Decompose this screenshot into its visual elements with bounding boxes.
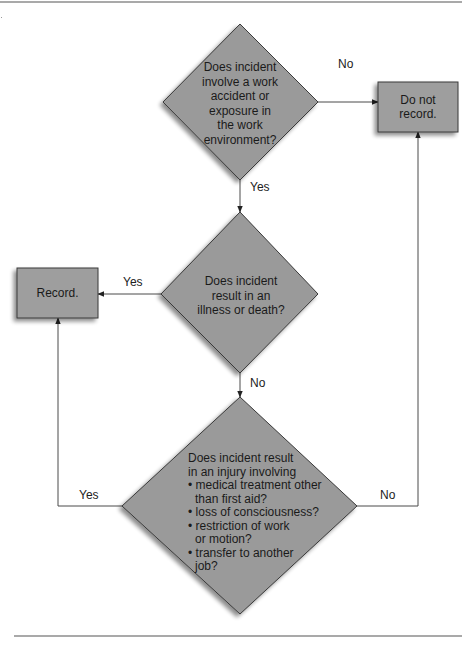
text-line: involve a work [185,75,295,90]
edge-label-d2-no: No [250,376,265,390]
text-line: exposure in [185,104,295,119]
text-line: Does incident [185,274,297,289]
text-line: record. [399,107,436,121]
bullet-icon: • [188,546,196,560]
text-line: environment? [185,133,295,148]
text-line: Do not [400,93,435,107]
text-line: Record. [36,286,78,300]
bullet-item: • transfer to another [188,547,338,561]
bullet-icon: • [188,505,196,519]
text-line: result in an [185,289,297,304]
corner-tick [1,17,2,18]
text-line: medical treatment other [196,478,322,492]
text-line: the work [185,118,295,133]
bullet-item: • loss of consciousness? [188,506,338,520]
text-line: or motion? [188,533,338,547]
edge-label-d2-yes: Yes [123,275,143,289]
decision-1-text: Does incident involve a work accident or… [185,60,295,147]
record-label: Record. [17,268,98,318]
decision-2-text: Does incident result in an illness or de… [185,274,297,318]
decision-3-text: Does incident result in an injury involv… [188,452,338,574]
text-line: accident or [185,89,295,104]
edge-label-d3-yes: Yes [79,488,99,502]
text-line: job? [188,560,338,574]
text-line: transfer to another [196,546,294,560]
text-line: Does incident result [188,452,338,466]
edge-label-d1-yes: Yes [250,180,270,194]
edge-label-d3-no: No [380,488,395,502]
text-line: illness or death? [185,303,297,318]
do-not-record-label: Do not record. [378,82,458,132]
text-line: than first aid? [188,493,338,507]
text-line: in an injury involving [188,466,338,480]
text-line: loss of consciousness? [196,505,319,519]
text-line: restriction of work [196,519,290,533]
bullet-icon: • [188,478,196,492]
edge-d3-no [357,132,418,506]
bullet-item: • restriction of work [188,520,338,534]
bullet-icon: • [188,519,196,533]
text-line: Does incident [185,60,295,75]
edge-d3-yes [58,318,122,506]
edge-label-d1-no: No [338,57,353,71]
bullet-item: • medical treatment other [188,479,338,493]
